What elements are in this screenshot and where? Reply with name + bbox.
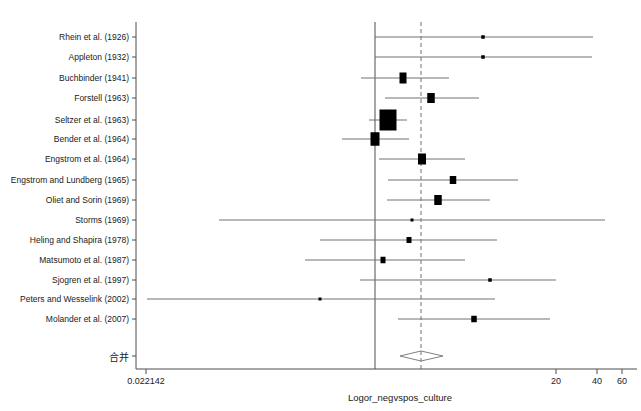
x-axis-title: Logor_negvspos_culture <box>348 392 452 403</box>
study-label: Storms (1969) <box>75 215 129 225</box>
study-label: Peters and Wesselink (2002) <box>20 294 129 304</box>
study-label: Engstrom and Lundberg (1965) <box>11 175 129 185</box>
x-axis-tick-label: 0.022142 <box>127 376 165 386</box>
effect-size-marker <box>380 110 397 131</box>
study-row <box>375 55 592 59</box>
effect-size-marker <box>450 176 457 184</box>
study-row <box>361 73 449 84</box>
x-axis-tick-label: 60 <box>617 376 627 386</box>
x-axis-tick-label: 20 <box>551 376 561 386</box>
study-row <box>305 257 465 264</box>
effect-size-marker <box>481 55 485 59</box>
effect-size-marker <box>400 73 407 84</box>
effect-size-marker <box>381 257 386 264</box>
study-row <box>379 154 465 165</box>
study-label: Sjogren et al. (1997) <box>52 275 129 285</box>
study-row <box>219 219 605 222</box>
study-label: Forstell (1963) <box>74 93 129 103</box>
study-row <box>387 195 490 205</box>
effect-size-marker <box>407 237 412 243</box>
study-label: Oliet and Sorin (1969) <box>46 195 129 205</box>
study-label: Buchbinder (1941) <box>59 73 129 83</box>
effect-size-marker <box>488 278 492 282</box>
effect-size-marker <box>371 132 380 146</box>
forest-plot: Rhein et al. (1926)Appleton (1932)Buchbi… <box>0 0 641 411</box>
effect-size-marker <box>411 219 414 222</box>
effect-size-marker <box>319 298 322 301</box>
study-label: Molander et al. (2007) <box>46 314 129 324</box>
study-label: Seltzer et al. (1963) <box>55 115 129 125</box>
effect-size-marker <box>471 316 477 323</box>
effect-size-marker <box>434 195 442 205</box>
study-rows-group <box>147 35 605 322</box>
study-label: Rhein et al. (1926) <box>59 32 129 42</box>
study-row <box>342 132 409 146</box>
study-row <box>385 93 479 103</box>
summary-row-label: 合并 <box>109 349 129 364</box>
effect-size-marker <box>427 93 435 103</box>
study-label: Appleton (1932) <box>69 52 130 62</box>
study-label: Matsumoto et al. (1987) <box>39 255 129 265</box>
study-row <box>360 278 556 282</box>
axis-group <box>132 22 637 374</box>
study-label: Heling and Shapira (1978) <box>30 235 129 245</box>
study-row <box>147 298 495 301</box>
study-label: Bender et al. (1964) <box>54 134 129 144</box>
effect-size-marker <box>481 35 485 39</box>
study-row <box>375 35 593 39</box>
study-row <box>320 237 497 243</box>
effect-size-marker <box>418 154 426 165</box>
study-row <box>388 176 518 184</box>
study-label: Engstrom et al. (1964) <box>45 154 129 164</box>
x-axis-tick-label: 40 <box>592 376 602 386</box>
